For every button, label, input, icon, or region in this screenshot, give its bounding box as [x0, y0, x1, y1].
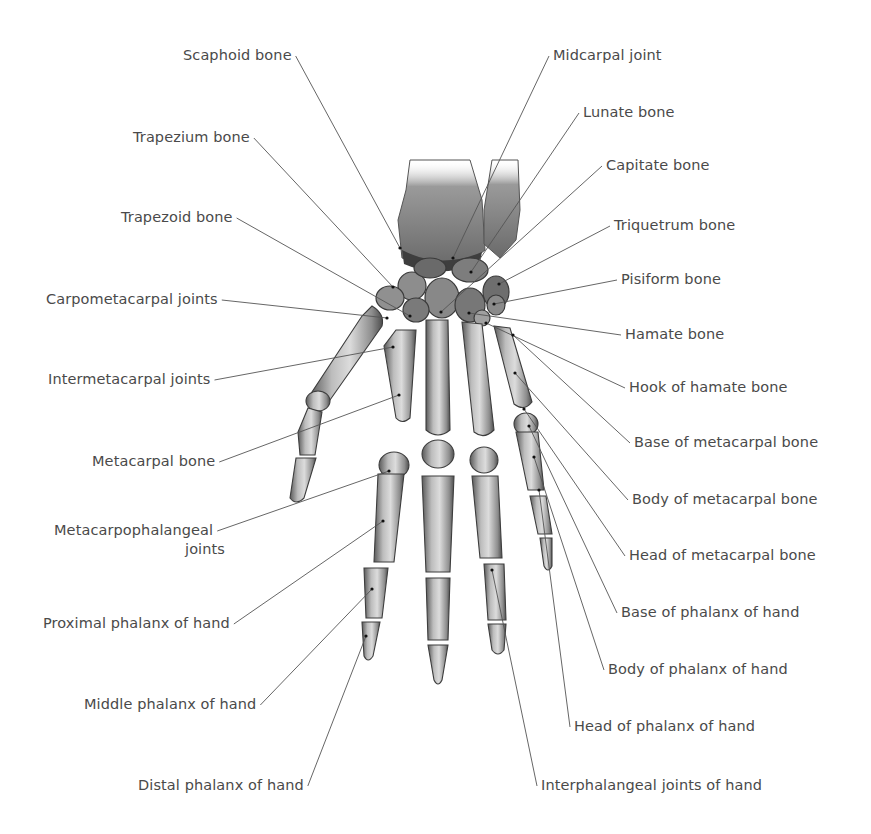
label-triquetrum-bone: Triquetrum bone: [614, 216, 735, 234]
ulna-bone: [484, 160, 520, 258]
label-pisiform-bone: Pisiform bone: [621, 270, 721, 288]
radius-bone: [398, 160, 485, 272]
label-carpometacarpal-joints: Carpometacarpal joints: [46, 290, 218, 308]
label-head-of-metacarpal-bone: Head of metacarpal bone: [629, 546, 816, 564]
hand-bones-diagram: Scaphoid bone Trapezium bone Trapezoid b…: [0, 0, 871, 834]
label-head-of-phalanx: Head of phalanx of hand: [574, 717, 755, 735]
label-scaphoid-bone: Scaphoid bone: [183, 46, 292, 64]
label-interphalangeal-joints: Interphalangeal joints of hand: [541, 776, 762, 794]
label-metacarpal-bone: Metacarpal bone: [92, 452, 215, 470]
label-middle-phalanx: Middle phalanx of hand: [84, 695, 256, 713]
label-intermetacarpal-joints: Intermetacarpal joints: [48, 370, 211, 388]
label-hamate-bone: Hamate bone: [625, 325, 724, 343]
thumb-bones: [290, 306, 383, 502]
label-hook-of-hamate-bone: Hook of hamate bone: [629, 378, 788, 396]
label-body-of-metacarpal-bone: Body of metacarpal bone: [632, 490, 817, 508]
label-metacarpophalangeal-joints-line1: Metacarpophalangeal: [54, 521, 213, 539]
label-distal-phalanx: Distal phalanx of hand: [138, 776, 304, 794]
label-lunate-bone: Lunate bone: [583, 103, 675, 121]
label-trapezoid-bone: Trapezoid bone: [121, 208, 233, 226]
label-base-of-phalanx: Base of phalanx of hand: [621, 603, 799, 621]
label-base-of-metacarpal-bone: Base of metacarpal bone: [634, 433, 818, 451]
label-midcarpal-joint: Midcarpal joint: [553, 46, 662, 64]
label-metacarpophalangeal-joints-line2: joints: [185, 540, 225, 558]
label-proximal-phalanx: Proximal phalanx of hand: [43, 614, 230, 632]
middle-finger-bones: [422, 320, 454, 684]
label-trapezium-bone: Trapezium bone: [133, 128, 250, 146]
label-capitate-bone: Capitate bone: [606, 156, 710, 174]
index-finger-bones: [362, 330, 416, 660]
label-body-of-phalanx: Body of phalanx of hand: [608, 660, 788, 678]
